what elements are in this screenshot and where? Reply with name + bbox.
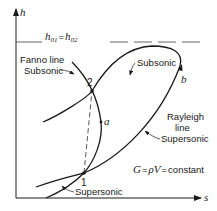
point-b-label: b [181, 73, 187, 85]
h-axis-label: h [20, 6, 26, 18]
rayleigh-label-line1: Rayleigh [167, 111, 204, 122]
point-2-marker [90, 89, 94, 93]
stagnation-enthalpy-line: h01=h02 [16, 30, 200, 44]
fanno-line [46, 62, 101, 198]
mass-flux-equation: G=ρV=constant [133, 163, 204, 175]
fanno-supersonic-text: Supersonic [75, 186, 123, 197]
s-axis-label: s [204, 191, 208, 203]
process-1-2-dashed [84, 91, 92, 173]
fanno-label: Fanno line Subsonic [20, 54, 74, 76]
rayleigh-subsonic-text: Subsonic [137, 57, 176, 68]
rayleigh-label-line2: line [175, 122, 190, 133]
rayleigh-label-line3: Supersonic [161, 133, 209, 144]
point-a-marker [100, 121, 103, 124]
fanno-label-line2: Subsonic [24, 65, 63, 76]
rayleigh-subsonic-label: Subsonic [130, 57, 176, 75]
point-a-label: a [104, 115, 110, 127]
point-1-marker [82, 171, 86, 175]
h-s-diagram: h s h01=h02 2 1 a b Fanno line Subsonic … [0, 0, 217, 211]
point-2-label: 2 [87, 77, 93, 88]
fanno-supersonic-label: Supersonic [62, 186, 123, 197]
rayleigh-label: Rayleigh line Supersonic [145, 111, 209, 144]
rayleigh-subsonic-leader [130, 63, 135, 75]
rayleigh-leader [145, 131, 160, 139]
fanno-label-line1: Fanno line [20, 54, 64, 65]
stagnation-label: h01=h02 [45, 30, 78, 44]
